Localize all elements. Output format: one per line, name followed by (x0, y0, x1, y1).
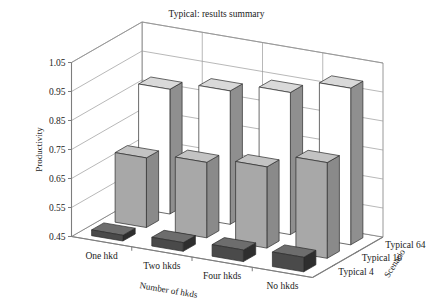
y-tick-label-6: 1.05 (49, 58, 66, 68)
bar-no-hkds-typical-4 (272, 245, 316, 272)
bar-front-face (236, 162, 267, 249)
y-tick-label-5: 0.95 (49, 87, 66, 97)
bar-side-face (351, 81, 363, 245)
bar-side-face (267, 160, 279, 248)
y-tick-label-4: 0.85 (49, 116, 66, 126)
x-category-label-3: No hkds (266, 281, 298, 291)
bar-front-face (115, 153, 146, 228)
y-tick-label-2: 0.65 (49, 174, 66, 184)
bar-front-face (296, 157, 327, 258)
x-category-label-2: Four hkds (203, 271, 242, 281)
y-tick-label-1: 0.55 (49, 203, 66, 213)
x-category-label-0: One hkd (85, 251, 118, 261)
x-axis-title: Number of hkds (139, 280, 199, 300)
bar-side-face (207, 155, 219, 237)
y-tick-label-3: 0.75 (49, 145, 66, 155)
bar-two-hkds-typical-16 (175, 150, 219, 238)
y-tick-label-0: 0.45 (49, 232, 66, 242)
bar-side-face (146, 151, 158, 228)
bar-chart-3d: 0.450.550.650.750.850.951.05One hkdTwo h… (0, 0, 433, 308)
bar-side-face (327, 156, 339, 259)
bar-four-hkds-typical-16 (236, 155, 280, 249)
z-category-label-0: Typical 4 (338, 267, 374, 277)
x-category-label-1: Two hkds (143, 261, 180, 271)
bar-front-face (175, 157, 206, 238)
bar-no-hkds-typical-16 (296, 150, 340, 258)
y-axis-title: Productivity (34, 127, 44, 172)
chart-root: 0.450.550.650.750.850.951.05One hkdTwo h… (0, 0, 433, 308)
z-category-label-2: Typical 64 (385, 240, 425, 250)
bar-one-hkd-typical-16 (115, 146, 159, 228)
